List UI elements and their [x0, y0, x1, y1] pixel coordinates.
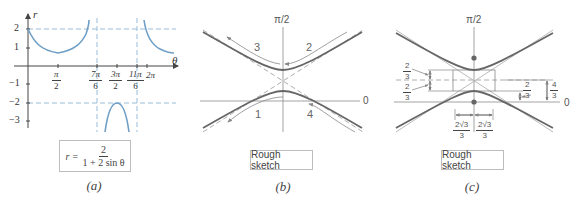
pi-half-label-c: π/2 [466, 14, 481, 25]
zero-label-b: 0 [363, 95, 369, 106]
caption-b: (b) [263, 179, 303, 195]
arc-label-2: 2 [306, 41, 312, 53]
y-axis-label: r [33, 8, 37, 20]
formula-fraction: 2 1 + 2 sin θ [83, 145, 125, 168]
zero-label-c: 0 [564, 97, 570, 108]
y-tick-neg1: −1 [9, 77, 20, 88]
caption-c: (c) [452, 179, 492, 195]
formula-lhs: r = [65, 151, 78, 162]
left-dim-upper: 2 3 [403, 62, 411, 81]
caption-a: (a) [74, 178, 114, 194]
right-dim-four-thirds: 4 3 [550, 81, 558, 100]
x-tick-2pi: 2π [146, 70, 155, 80]
formula-box: r = 2 1 + 2 sin θ [59, 140, 131, 172]
y-tick-2: 2 [14, 22, 19, 33]
x-tick-11pi-6: 11π 6 [127, 70, 144, 91]
x-tick-7pi-6: 7π 6 [89, 70, 102, 91]
arc-label-1: 1 [255, 108, 261, 120]
y-tick-1: 1 [14, 41, 19, 52]
x-tick-pi-2: π 2 [52, 70, 61, 91]
rough-sketch-label-c: Rough sketch [441, 150, 504, 170]
arc-label-4: 4 [307, 108, 313, 120]
bottom-dim-left: 2√3 3 [453, 121, 470, 140]
x-axis-label: θ [172, 54, 177, 66]
right-dim-two-thirds: 2 3 [523, 81, 531, 100]
panel-c: π/2 0 2 3 2 3 2 3 4 3 2√3 3 2√3 3 Rough … [390, 0, 578, 198]
panel-a: r θ 2 1 −1 −2 −3 π 2 7π 6 3π 2 11π 6 2π … [0, 0, 200, 198]
bottom-dim-right: 2√3 3 [476, 121, 493, 140]
panel-b: π/2 0 3 2 1 4 Rough sketch (b) [200, 0, 390, 198]
pi-half-label-b: π/2 [274, 14, 289, 25]
arc-label-3: 3 [254, 41, 260, 53]
y-tick-neg2: −2 [9, 96, 20, 107]
left-dim-lower: 2 3 [403, 83, 411, 102]
x-tick-3pi-2: 3π 2 [109, 70, 122, 91]
rough-sketch-label-b: Rough sketch [250, 150, 313, 170]
y-tick-neg3: −3 [9, 114, 20, 125]
